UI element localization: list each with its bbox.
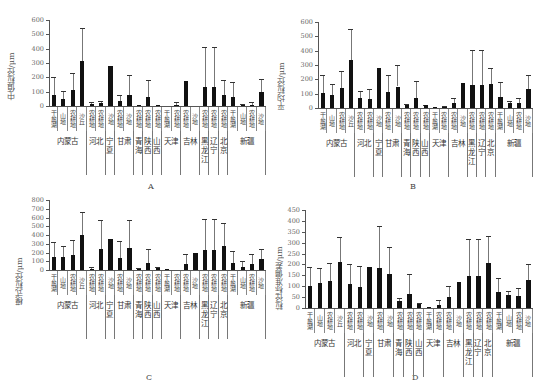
category-label: 干盐湖 (318, 109, 327, 133)
category-label: 沙地 (384, 309, 394, 333)
bar (212, 87, 216, 106)
category-label: 山地 (315, 309, 325, 333)
bar (526, 89, 530, 108)
category-label: 农耕地 (440, 109, 449, 133)
category-label: 农耕地 (514, 109, 523, 133)
category-label: 农耕地 (200, 271, 209, 295)
group-label: 甘肃 (115, 131, 134, 175)
y-tick-mark (302, 264, 305, 265)
category-axis: 干盐湖山地农耕地沙丘农耕地农耕地沙地农耕地沙地农耕地农耕地农耕地干盐湖农耕地农耕… (305, 308, 533, 379)
bar (396, 87, 400, 109)
error-cap (249, 254, 254, 255)
category-label: 农耕地 (421, 109, 430, 133)
error-bar (205, 219, 206, 250)
category-label: 农耕地 (143, 107, 152, 131)
category-label: 农耕地 (172, 107, 181, 131)
group-label: 天津 (424, 333, 444, 377)
category-label: 农耕地 (153, 107, 162, 131)
category-label: 沙地 (524, 109, 533, 133)
bar (146, 97, 150, 106)
category-label: 沙地 (454, 309, 464, 333)
error-bar (498, 278, 499, 292)
category-label: 沙地 (374, 109, 383, 133)
category-label: 干盐湖 (305, 309, 315, 333)
error-bar (397, 65, 398, 86)
error-cap (507, 101, 512, 102)
bar (349, 60, 353, 108)
category-label: 农耕地 (434, 309, 444, 333)
category-axis: 干盐湖山地农耕地沙丘农耕地农耕地沙地农耕地沙地农耕地农耕地农耕地干盐湖农耕地农耕… (49, 270, 266, 341)
plot-area-c: 0100200300400500600700800 (49, 200, 266, 270)
bar (386, 92, 390, 108)
bar (470, 85, 474, 108)
error-cap (320, 75, 325, 76)
category-label: 农耕地 (96, 271, 105, 295)
category-label: 干盐湖 (228, 107, 237, 131)
category-axis: 干盐湖山地农耕地沙丘农耕地农耕地沙地农耕地沙地农耕地农耕地农耕地干盐湖农耕地农耕… (49, 106, 266, 177)
y-tick-label: 600 (22, 16, 44, 24)
y-tick-label: 500 (291, 32, 313, 40)
category-label: 沙地 (523, 309, 533, 333)
error-cap (414, 81, 419, 82)
error-cap (347, 264, 352, 265)
category-label: 农耕地 (365, 109, 374, 133)
group-label: 山西 (421, 133, 430, 177)
category-label: 农耕地 (209, 107, 218, 131)
y-tick-label: 400 (291, 47, 313, 55)
category-label: 农耕地 (209, 271, 218, 295)
y-tick-mark (302, 275, 305, 276)
category-label: 农耕地 (143, 271, 152, 295)
category-label: 农耕地 (449, 109, 458, 133)
bar (222, 246, 226, 270)
y-tick-mark (315, 22, 318, 23)
y-tick-label: 300 (22, 240, 44, 248)
group-label: 黑龙江 (468, 133, 477, 177)
error-cap (446, 286, 451, 287)
y-tick-label: 0 (22, 102, 44, 110)
category-label: 农耕地 (404, 309, 414, 333)
bar (506, 295, 510, 308)
error-bar (205, 47, 206, 87)
bar (127, 95, 131, 106)
error-bar (214, 47, 215, 87)
y-tick-mark (46, 77, 49, 78)
y-tick-label: 600 (22, 214, 44, 222)
category-label: 农耕地 (68, 107, 77, 131)
category-label: 山地 (58, 271, 67, 295)
error-cap (348, 29, 353, 30)
error-cap (526, 264, 531, 265)
bar (80, 61, 84, 106)
bar (184, 81, 188, 106)
category-label: 干盐湖 (430, 109, 439, 133)
category-label: 农耕地 (172, 271, 181, 295)
error-cap (259, 249, 264, 250)
category-label: 沙丘 (77, 271, 86, 295)
error-cap (307, 267, 312, 268)
error-cap (98, 101, 103, 102)
error-bar (472, 50, 473, 85)
y-tick-mark (315, 65, 318, 66)
bar (193, 253, 197, 271)
bar (127, 248, 131, 270)
error-bar (332, 84, 333, 94)
y-tick-label: 350 (278, 228, 300, 236)
group-label: 北京 (219, 295, 228, 339)
category-label: 农耕地 (374, 309, 384, 333)
y-tick-label: 450 (278, 206, 300, 214)
error-bar (63, 246, 64, 257)
y-tick-label: 200 (278, 260, 300, 268)
bar (259, 92, 263, 106)
y-tick-mark (302, 221, 305, 222)
category-label: 山地 (58, 107, 67, 131)
category-label: 农耕地 (477, 109, 486, 133)
error-cap (202, 47, 207, 48)
error-bar (341, 71, 342, 88)
error-bar (73, 240, 74, 255)
y-tick-label: 100 (291, 90, 313, 98)
group-label: 吉林 (181, 295, 200, 339)
error-bar (416, 81, 417, 98)
group-label: 山西 (153, 131, 162, 175)
error-bar (233, 82, 234, 97)
error-bar (488, 236, 489, 263)
error-cap (488, 68, 493, 69)
